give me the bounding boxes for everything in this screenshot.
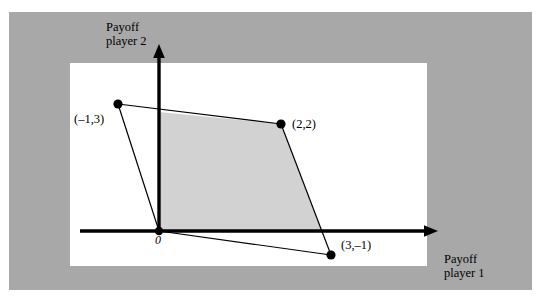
edge-origin-p1	[118, 104, 159, 231]
y-axis-label-line1: Payoff	[106, 20, 147, 34]
point-marker-2-2	[276, 119, 285, 128]
y-axis-label: Payoff player 2	[106, 20, 147, 48]
point-label-2-2: (2,2)	[292, 117, 316, 131]
payoff-region-figure: Payoff player 2 Payoff player 1 (–1,3) (…	[0, 0, 544, 303]
y-axis-arrowhead	[153, 44, 165, 58]
point-label-3-neg1: (3,–1)	[341, 238, 371, 252]
x-axis-arrowhead	[424, 225, 438, 237]
origin-label: 0	[155, 234, 161, 247]
x-axis-label-line1: Payoff	[444, 252, 485, 266]
y-axis-label-line2: player 2	[106, 34, 147, 48]
x-axis-label: Payoff player 1	[444, 252, 485, 280]
point-marker-3-neg1	[326, 250, 335, 259]
point-label-neg1-3: (–1,3)	[74, 112, 104, 126]
edge-p3-origin	[159, 231, 331, 255]
point-marker-neg1-3	[113, 99, 122, 108]
x-axis-label-line2: player 1	[444, 266, 485, 280]
